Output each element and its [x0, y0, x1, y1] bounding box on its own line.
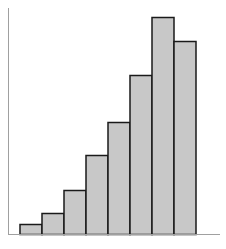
bar-4: [86, 156, 108, 235]
bar-2: [42, 214, 64, 235]
bar-1: [20, 225, 42, 235]
bar-7: [152, 18, 174, 235]
bar-6: [130, 76, 152, 235]
bar-8: [174, 42, 196, 235]
histogram-chart: [0, 0, 226, 249]
bar-5: [108, 123, 130, 235]
bar-3: [64, 191, 86, 235]
bars: [20, 18, 196, 235]
